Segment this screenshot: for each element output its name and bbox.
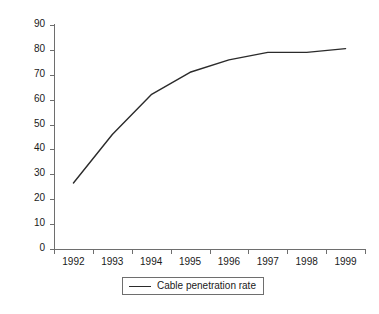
- y-tick-label: 10: [34, 217, 45, 228]
- legend-label: Cable penetration rate: [157, 280, 256, 292]
- x-tick-label-1995: 1995: [169, 256, 211, 268]
- x-tick-label-1996: 1996: [208, 256, 250, 268]
- line-chart: 0102030405060708090 19921993199419951996…: [0, 0, 379, 314]
- legend-line-swatch: [129, 286, 151, 287]
- y-tick-label: 80: [34, 43, 45, 54]
- y-tick-mark: [50, 174, 54, 175]
- y-tick-label: 0: [39, 242, 45, 253]
- y-tick-mark: [50, 50, 54, 51]
- y-tick-mark: [50, 149, 54, 150]
- x-tick-label-1997: 1997: [247, 256, 289, 268]
- y-tick-label: 20: [34, 192, 45, 203]
- y-tick-mark: [50, 25, 54, 26]
- x-tick-mark: [248, 249, 249, 254]
- y-tick-label: 50: [34, 118, 45, 129]
- y-tick-mark: [50, 125, 54, 126]
- x-tick-mark: [326, 249, 327, 254]
- x-tick-label-1993: 1993: [91, 256, 133, 268]
- x-tick-label-1999: 1999: [325, 256, 367, 268]
- x-tick-mark: [365, 249, 366, 254]
- x-tick-mark: [210, 249, 211, 254]
- y-tick-label: 90: [34, 18, 45, 29]
- y-tick-label: 70: [34, 68, 45, 79]
- x-tick-mark: [54, 249, 55, 254]
- y-tick-label: 40: [34, 142, 45, 153]
- y-tick-mark: [50, 75, 54, 76]
- y-axis-line: [54, 24, 55, 250]
- y-tick-label: 30: [34, 167, 45, 178]
- x-tick-mark: [132, 249, 133, 254]
- x-tick-label-1992: 1992: [52, 256, 94, 268]
- y-tick-label: 60: [34, 93, 45, 104]
- y-tick-mark: [50, 100, 54, 101]
- x-tick-mark: [171, 249, 172, 254]
- y-tick-mark: [50, 224, 54, 225]
- x-tick-mark: [93, 249, 94, 254]
- x-tick-mark: [287, 249, 288, 254]
- chart-legend: Cable penetration rate: [122, 277, 264, 295]
- x-tick-label-1994: 1994: [130, 256, 172, 268]
- y-tick-mark: [50, 199, 54, 200]
- x-tick-label-1998: 1998: [286, 256, 328, 268]
